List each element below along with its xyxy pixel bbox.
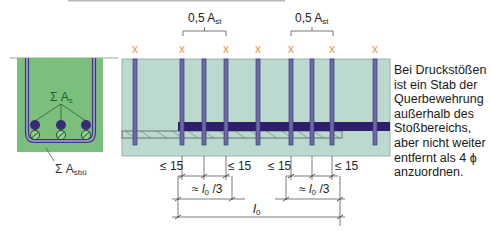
label-half-ast-right: 0,5 Ast <box>295 11 329 26</box>
marker-x: x <box>223 42 229 56</box>
main-bar-solid <box>178 122 390 131</box>
cross-section: Σ As Σ Asbü <box>10 58 118 177</box>
stirrup-bar <box>373 59 377 145</box>
label-le15: ≤ 15 <box>228 159 252 173</box>
elevation-view: x x x x x x x 0,5 Ast 0,5 Ast <box>122 11 390 156</box>
stirrup-bar <box>224 59 228 145</box>
splice-bar-hatched <box>122 131 342 138</box>
label-third-right: ≈ l0 /3 <box>299 182 330 197</box>
label-l0: l0 <box>253 201 261 217</box>
main-bar-section <box>56 120 66 130</box>
stirrup-bar <box>330 59 334 145</box>
brace-left <box>183 27 226 36</box>
marker-x: x <box>179 42 185 56</box>
marker-x: x <box>329 42 335 56</box>
stirrup-bar <box>289 59 293 145</box>
stirrup-bar <box>133 59 137 145</box>
main-bar-section <box>81 120 91 130</box>
stirrup-bar <box>256 59 260 145</box>
label-third-left: ≈ l0 /3 <box>192 182 223 197</box>
marker-x: x <box>255 42 261 56</box>
marker-x: x <box>132 42 138 56</box>
label-le15: ≤ 15 <box>160 159 184 173</box>
label-sum-asbu: Σ Asbü <box>55 162 87 177</box>
note-text: Bei Druckstößen ist ein Stab der Querbew… <box>394 63 491 180</box>
label-le15: ≤ 15 <box>335 159 359 173</box>
stirrup-bar <box>180 59 184 145</box>
marker-x: x <box>372 42 378 56</box>
marker-x: x <box>288 42 294 56</box>
stirrup-bar <box>202 59 206 145</box>
brace-right <box>291 27 333 36</box>
stirrup-bar <box>310 59 314 145</box>
label-le15: ≤ 15 <box>268 159 292 173</box>
main-bar-section <box>30 120 40 130</box>
label-half-ast-left: 0,5 Ast <box>188 11 222 26</box>
